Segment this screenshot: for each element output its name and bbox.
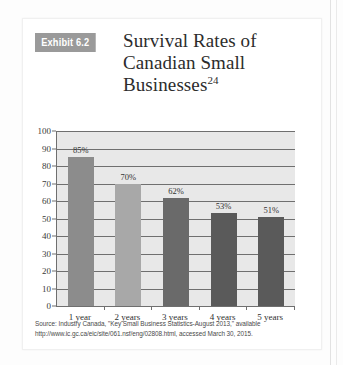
bar-slot: 85% <box>57 131 105 306</box>
bar: 51% <box>258 217 284 306</box>
bar-value-label: 53% <box>216 201 232 211</box>
plot-area: 85%70%62%53%51% <box>56 131 295 307</box>
y-axis-tick-mark <box>52 148 56 149</box>
page-edge-line <box>330 0 331 365</box>
y-axis-tick-label: 70 <box>42 179 51 189</box>
x-axis-tick-mark <box>294 306 295 310</box>
y-axis-tick-mark <box>52 253 56 254</box>
y-axis-tick-label: 10 <box>42 284 51 294</box>
y-axis-tick-label: 60 <box>42 196 51 206</box>
bar: 53% <box>211 213 237 306</box>
y-axis-tick-mark <box>52 271 56 272</box>
y-axis-tick-label: 30 <box>42 249 51 259</box>
exhibit-header: Exhibit 6.2 Survival Rates of Canadian S… <box>35 33 311 52</box>
bar-value-label: 62% <box>168 186 184 196</box>
bar-slot: 70% <box>105 131 153 306</box>
page-edge-line-secondary <box>336 0 337 365</box>
y-axis-tick-label: 90 <box>42 144 51 154</box>
exhibit-badge: Exhibit 6.2 <box>35 33 95 52</box>
x-axis-tick-mark <box>104 306 105 310</box>
x-axis-tick-mark <box>246 306 247 310</box>
y-axis-tick-label: 20 <box>42 266 51 276</box>
y-axis-tick-label: 40 <box>42 231 51 241</box>
exhibit-card: Exhibit 6.2 Survival Rates of Canadian S… <box>22 18 322 350</box>
y-axis-tick-mark <box>52 201 56 202</box>
y-axis-tick-mark <box>52 183 56 184</box>
y-axis-tick-label: 80 <box>42 161 51 171</box>
bar-series: 85%70%62%53%51% <box>57 131 295 306</box>
bar-value-label: 85% <box>73 145 89 155</box>
source-citation: Source: Industry Canada, "Key Small Busi… <box>35 319 315 338</box>
bar: 62% <box>163 198 189 307</box>
bar-value-label: 51% <box>263 205 279 215</box>
bar: 85% <box>68 157 94 306</box>
y-axis-tick-label: 0 <box>47 301 52 311</box>
bar-slot: 62% <box>152 131 200 306</box>
y-axis-tick-label: 100 <box>38 126 52 136</box>
bar-value-label: 70% <box>121 172 137 182</box>
y-axis-tick-mark <box>52 166 56 167</box>
y-axis-tick-label: 50 <box>42 214 51 224</box>
y-axis-tick-mark <box>52 236 56 237</box>
bar-slot: 51% <box>247 131 295 306</box>
y-axis-tick-mark <box>52 131 56 132</box>
page-title: Survival Rates of Canadian Small Busines… <box>123 30 313 96</box>
title-line-3: Businesses <box>123 74 207 95</box>
y-axis-tick-mark <box>52 218 56 219</box>
bar: 70% <box>115 184 141 307</box>
y-axis-tick-mark <box>52 288 56 289</box>
title-line-1: Survival Rates of <box>123 30 257 51</box>
x-axis-tick-mark <box>151 306 152 310</box>
scanned-page: Exhibit 6.2 Survival Rates of Canadian S… <box>0 0 343 365</box>
title-footnote-superscript: 24 <box>207 74 218 86</box>
title-line-2: Canadian Small <box>123 52 245 73</box>
bar-slot: 53% <box>200 131 248 306</box>
bar-chart: 85%70%62%53%51% 1009080706050403020100 1… <box>56 131 294 306</box>
x-axis-tick-mark <box>199 306 200 310</box>
